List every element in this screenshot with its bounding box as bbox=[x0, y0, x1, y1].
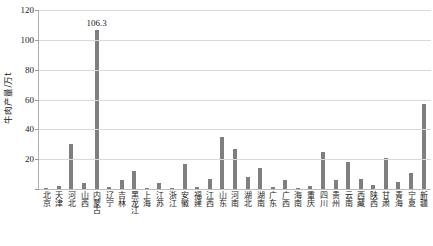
gridline-40 bbox=[39, 129, 431, 130]
x-axis-label: 新疆 bbox=[419, 191, 427, 206]
y-axis-tick-mark-120 bbox=[35, 10, 39, 11]
y-axis-tick-mark-20 bbox=[35, 159, 39, 160]
bar bbox=[120, 180, 124, 189]
x-axis-label-slot: 河北 bbox=[64, 191, 77, 246]
gridline-0 bbox=[39, 189, 431, 190]
x-axis-label-slot: 青海 bbox=[391, 191, 404, 246]
bar bbox=[233, 149, 237, 189]
x-axis-label: 安徽 bbox=[180, 191, 188, 206]
x-axis-label-slot: 河南 bbox=[228, 191, 241, 246]
x-axis-label-slot: 海南 bbox=[291, 191, 304, 246]
x-axis-tick-labels: 北京天津河北山西内蒙古辽宁吉林黑龙江上海江苏浙江安徽福建江西山东河南湖北湖南广东… bbox=[38, 191, 430, 246]
bar bbox=[258, 168, 262, 189]
x-axis-label-slot: 北京 bbox=[39, 191, 52, 246]
gridline-120 bbox=[39, 10, 431, 11]
x-axis-label: 广西 bbox=[280, 191, 288, 206]
x-axis-label: 福建 bbox=[192, 191, 200, 206]
bar bbox=[422, 104, 426, 189]
bar bbox=[183, 164, 187, 189]
y-axis-tick-mark-60 bbox=[35, 100, 39, 101]
x-axis-label: 河北 bbox=[66, 191, 74, 206]
x-axis-label-slot: 陕西 bbox=[366, 191, 379, 246]
x-axis-label: 湖南 bbox=[255, 191, 263, 206]
x-axis-label: 四川 bbox=[318, 191, 326, 206]
x-axis-label-slot: 重庆 bbox=[303, 191, 316, 246]
bar bbox=[132, 171, 136, 189]
x-axis-label-slot: 西藏 bbox=[353, 191, 366, 246]
x-axis-label-slot: 四川 bbox=[316, 191, 329, 246]
y-axis-tick-label: 40 bbox=[25, 124, 34, 134]
gridline-20 bbox=[39, 159, 431, 160]
bar bbox=[220, 137, 224, 189]
bar-chart: 牛肉产量/万t 120100806040200 106.3 北京天津河北山西内蒙… bbox=[0, 0, 433, 246]
x-axis-label-slot: 湖北 bbox=[240, 191, 253, 246]
x-axis-label-slot: 新疆 bbox=[416, 191, 429, 246]
x-axis-label: 山西 bbox=[79, 191, 87, 206]
x-axis-label: 重庆 bbox=[305, 191, 313, 206]
bar bbox=[95, 30, 99, 189]
bar bbox=[359, 179, 363, 189]
x-axis-label: 陕西 bbox=[368, 191, 376, 206]
y-axis-tick-mark-100 bbox=[35, 40, 39, 41]
x-axis-label-slot: 广西 bbox=[278, 191, 291, 246]
bar bbox=[246, 177, 250, 189]
x-axis-label-slot: 内蒙古 bbox=[89, 191, 102, 246]
x-axis-label-slot: 江苏 bbox=[152, 191, 165, 246]
x-axis-label-slot: 湖南 bbox=[253, 191, 266, 246]
x-axis-label-slot: 广东 bbox=[265, 191, 278, 246]
bar bbox=[321, 152, 325, 189]
y-axis-tick-mark-80 bbox=[35, 70, 39, 71]
x-axis-label-slot: 浙江 bbox=[165, 191, 178, 246]
x-axis-label: 贵州 bbox=[331, 191, 339, 206]
x-axis-label: 内蒙古 bbox=[92, 191, 100, 214]
x-axis-label-slot: 吉林 bbox=[114, 191, 127, 246]
y-axis-tick-label: 60 bbox=[25, 95, 34, 105]
x-axis-label: 甘肃 bbox=[381, 191, 389, 206]
x-axis-label: 吉林 bbox=[117, 191, 125, 206]
gridline-80 bbox=[39, 70, 431, 71]
x-axis-label-slot: 贵州 bbox=[328, 191, 341, 246]
y-axis-tick-label: 120 bbox=[21, 5, 35, 15]
x-axis-label-slot: 甘肃 bbox=[379, 191, 392, 246]
bar bbox=[384, 158, 388, 189]
bar bbox=[69, 144, 73, 189]
x-axis-label: 青海 bbox=[393, 191, 401, 206]
x-axis-label: 江苏 bbox=[154, 191, 162, 206]
x-axis-label: 辽宁 bbox=[104, 191, 112, 206]
x-axis-label-slot: 福建 bbox=[190, 191, 203, 246]
y-axis-tick-mark-0 bbox=[35, 189, 39, 190]
x-axis-label-slot: 江西 bbox=[203, 191, 216, 246]
bar bbox=[334, 180, 338, 189]
x-axis-label: 山东 bbox=[217, 191, 225, 206]
x-axis-label: 北京 bbox=[41, 191, 49, 206]
bar bbox=[208, 179, 212, 189]
x-axis-label: 江西 bbox=[205, 191, 213, 206]
x-axis-label: 广东 bbox=[268, 191, 276, 206]
x-axis-label: 海南 bbox=[293, 191, 301, 206]
x-axis-label: 浙江 bbox=[167, 191, 175, 206]
x-axis-label: 宁夏 bbox=[406, 191, 414, 206]
x-axis-label-slot: 山东 bbox=[215, 191, 228, 246]
y-axis-tick-mark-40 bbox=[35, 129, 39, 130]
x-axis-label-slot: 山西 bbox=[77, 191, 90, 246]
x-axis-label: 天津 bbox=[54, 191, 62, 206]
bar bbox=[409, 173, 413, 189]
x-axis-label-slot: 天津 bbox=[52, 191, 65, 246]
x-axis-label-slot: 宁夏 bbox=[404, 191, 417, 246]
x-axis-label: 湖北 bbox=[243, 191, 251, 206]
bar bbox=[396, 182, 400, 189]
x-axis-label-slot: 黑龙江 bbox=[127, 191, 140, 246]
x-axis-label-slot: 安徽 bbox=[177, 191, 190, 246]
y-axis-tick-labels: 120100806040200 bbox=[12, 0, 37, 196]
y-axis-tick-label: 20 bbox=[25, 154, 34, 164]
x-axis-label: 云南 bbox=[343, 191, 351, 206]
plot-area: 106.3 bbox=[38, 10, 431, 189]
x-axis-label-slot: 云南 bbox=[341, 191, 354, 246]
y-axis-tick-label: 100 bbox=[21, 35, 35, 45]
x-axis-label: 黑龙江 bbox=[129, 191, 137, 214]
gridline-100 bbox=[39, 40, 431, 41]
x-axis-label-slot: 辽宁 bbox=[102, 191, 115, 246]
x-axis-label: 西藏 bbox=[356, 191, 364, 206]
x-axis-label-slot: 上海 bbox=[140, 191, 153, 246]
x-axis-label: 上海 bbox=[142, 191, 150, 206]
